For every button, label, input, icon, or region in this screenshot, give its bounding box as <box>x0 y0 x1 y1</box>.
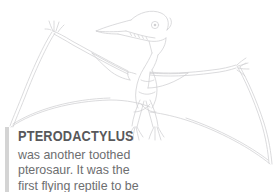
body-line: was another toothed <box>18 148 139 163</box>
head-and-neck <box>96 11 171 70</box>
wing-arm-bones <box>92 53 188 88</box>
page-root: PTERODACTYLUS was another toothed pteros… <box>0 0 277 192</box>
body-line: pterosaur. It was the <box>18 163 139 178</box>
accent-bar <box>5 127 9 192</box>
body-line: first flying reptile to be <box>18 179 139 192</box>
caption-block: PTERODACTYLUS was another toothed pteros… <box>0 124 200 192</box>
body-text: was another toothed pterosaur. It was th… <box>18 148 139 192</box>
right-wing-claw <box>237 58 249 76</box>
left-wing-claw <box>45 21 64 32</box>
page-title: PTERODACTYLUS <box>18 128 134 144</box>
